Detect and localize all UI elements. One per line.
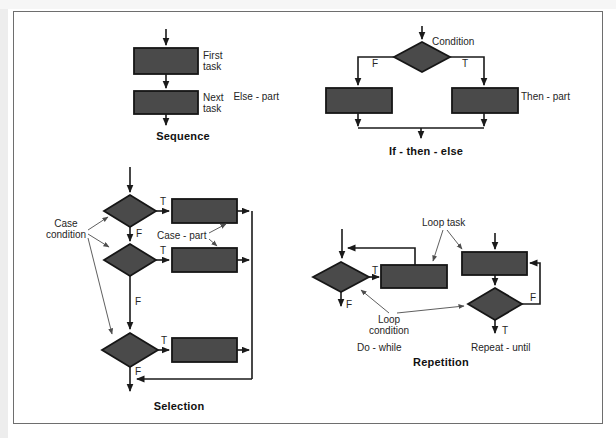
ru-false-label: F — [530, 292, 536, 303]
dw-true-label: T — [372, 265, 378, 276]
rep-loop-task-label: Loop task — [422, 217, 465, 228]
dw-condition-diamond — [313, 262, 369, 292]
sel-diamond-3 — [102, 333, 158, 367]
sel-false-label-3: F — [135, 366, 141, 377]
sel-true-label-1: T — [160, 196, 166, 207]
sel-diamond-2 — [104, 244, 156, 276]
rep-pointer-looptask-1 — [433, 230, 443, 261]
sel-case-box-2 — [172, 248, 237, 272]
rep-pointer-loopcond-2 — [397, 306, 464, 313]
dw-false-label: F — [346, 299, 352, 310]
rep-pointer-looptask-2 — [447, 230, 462, 249]
if-then-else-title: If - then - else — [376, 145, 476, 157]
dw-feedback-line — [348, 248, 415, 265]
sel-true-label-3: T — [161, 335, 167, 346]
ite-then-part-label: Then - part — [521, 91, 570, 102]
if-then-else-diagram — [326, 26, 518, 138]
sequence-title: Sequence — [146, 130, 220, 142]
sequence-first-task-label: First task — [203, 50, 222, 72]
ite-true-label: T — [462, 58, 468, 69]
ite-then-part-box — [452, 88, 518, 113]
ite-condition-label: Condition — [432, 36, 474, 47]
sel-case-condition-label: Case condition — [40, 218, 92, 240]
sel-false-label-2: F — [135, 296, 141, 307]
selection-title: Selection — [139, 400, 219, 412]
repeat-until-label: Repeat - until — [471, 342, 530, 353]
sequence-next-task-box — [134, 91, 198, 114]
do-while-label: Do - while — [357, 342, 401, 353]
sequence-diagram — [134, 29, 198, 125]
ite-else-part-box — [326, 88, 392, 113]
repeat-until-diagram — [462, 233, 540, 333]
ru-true-label: T — [502, 325, 508, 336]
repetition-title: Repetition — [401, 356, 481, 368]
rep-pointer-loopcond-1 — [361, 290, 389, 313]
rep-loop-condition-label: Loop condition — [364, 314, 414, 336]
do-while-diagram — [313, 229, 447, 306]
sel-pointer-casepart-2 — [209, 239, 217, 246]
selection-diagram — [88, 167, 252, 391]
sel-pointer-casepart-1 — [209, 224, 226, 233]
sequence-first-task-box — [134, 48, 198, 74]
sel-case-box-3 — [172, 338, 237, 362]
dw-loop-task-box — [381, 265, 447, 288]
sel-false-label-1: F — [136, 228, 142, 239]
ru-condition-diamond — [468, 288, 522, 320]
ite-false-label: F — [372, 58, 378, 69]
flowchart-graphics — [0, 0, 616, 438]
ite-else-part-label: Else - part — [233, 91, 279, 102]
sequence-next-task-label: Next task — [203, 92, 224, 114]
sel-pointer-condition-3 — [88, 238, 112, 334]
sel-diamond-1 — [104, 195, 156, 227]
ru-loop-task-box — [462, 252, 527, 275]
sel-true-label-2: T — [160, 245, 166, 256]
sel-case-box-1 — [172, 199, 237, 223]
sel-case-part-label: Case - part — [157, 230, 206, 241]
scanned-flowchart-page: { "sequence": { "title": "Sequence", "fi… — [0, 0, 616, 438]
